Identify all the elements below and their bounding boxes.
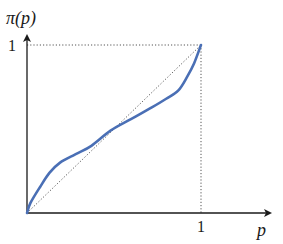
x-axis-label: p <box>255 220 266 240</box>
x-tick-label: 1 <box>197 218 205 235</box>
probability-weighting-chart: π(p) 1 1 p <box>0 0 283 244</box>
y-tick-label: 1 <box>8 37 16 54</box>
y-axis-label: π(p) <box>6 8 36 29</box>
